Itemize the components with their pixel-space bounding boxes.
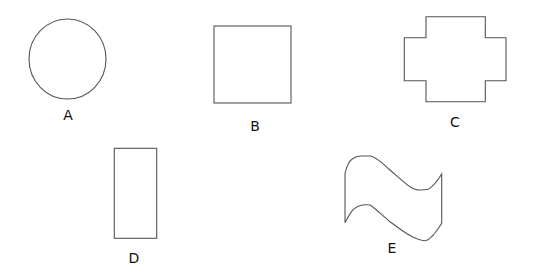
shape-b-label: B <box>250 118 260 134</box>
shapes-diagram: A B C D E <box>0 0 533 276</box>
rectangle-shape <box>114 148 156 238</box>
shape-b: B <box>214 26 291 134</box>
circle-shape <box>29 19 106 99</box>
shape-a: A <box>29 19 106 123</box>
wave-shape <box>345 156 442 241</box>
shape-e: E <box>345 156 442 256</box>
shape-c: C <box>404 17 506 130</box>
shape-c-label: C <box>450 114 460 130</box>
shape-d-label: D <box>129 250 140 266</box>
square-shape <box>214 26 291 103</box>
shape-a-label: A <box>63 107 73 123</box>
cross-polygon-shape <box>404 17 506 102</box>
shape-d: D <box>114 148 156 266</box>
shape-e-label: E <box>388 240 397 256</box>
